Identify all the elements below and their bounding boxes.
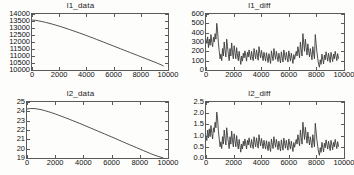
- xtick-mark: [289, 14, 290, 17]
- xtick-mark: [168, 14, 169, 17]
- ytick-label: 25: [17, 98, 27, 106]
- xtick-label: 8000: [131, 159, 148, 167]
- xtick-mark: [32, 14, 33, 17]
- ytick-label: 400: [191, 29, 206, 37]
- xtick-label: 10000: [334, 159, 354, 167]
- ytick-mark: [27, 139, 30, 140]
- ytick-label: 1.5: [194, 121, 206, 129]
- xtick-mark: [168, 102, 169, 105]
- ytick-label: 600: [191, 10, 206, 18]
- ytick-mark: [165, 56, 168, 57]
- xtick-mark: [234, 67, 235, 70]
- xtick-mark: [114, 67, 115, 70]
- plot-area-l2-diff: 0.00.51.01.52.02.50200040006000800010000: [205, 101, 345, 159]
- xtick-mark: [206, 155, 207, 158]
- xtick-label: 4000: [75, 159, 92, 167]
- xtick-mark: [32, 67, 33, 70]
- ytick-label: 1.0: [194, 132, 206, 140]
- xtick-mark: [206, 14, 207, 17]
- ytick-mark: [206, 61, 209, 62]
- ytick-label: 10000: [9, 66, 32, 74]
- xtick-mark: [261, 14, 262, 17]
- xtick-mark: [316, 67, 317, 70]
- xtick-mark: [83, 102, 84, 105]
- xtick-mark: [344, 14, 345, 17]
- ytick-label: 500: [191, 20, 206, 28]
- ytick-mark: [27, 130, 30, 131]
- xtick-mark: [261, 155, 262, 158]
- xtick-mark: [140, 155, 141, 158]
- panel-l1-data: l1_data 10000105001100011500120001250013…: [0, 0, 177, 88]
- ytick-label: 0.5: [194, 143, 206, 151]
- xtick-label: 6000: [280, 159, 297, 167]
- ytick-mark: [341, 23, 344, 24]
- xtick-label: 10000: [158, 71, 179, 79]
- xtick-mark: [114, 14, 115, 17]
- plot-area-l1-data: 1000010500110001150012000125001300013500…: [31, 13, 169, 71]
- xtick-label: 4000: [253, 71, 270, 79]
- ytick-mark: [165, 35, 168, 36]
- ytick-label: 2.5: [194, 98, 206, 106]
- ytick-mark: [165, 63, 168, 64]
- plot-line-l1-data: [32, 14, 168, 70]
- xtick-label: 6000: [280, 71, 297, 79]
- ytick-mark: [206, 42, 209, 43]
- xtick-label: 2000: [47, 159, 64, 167]
- xtick-mark: [234, 102, 235, 105]
- xtick-mark: [234, 14, 235, 17]
- xtick-label: 6000: [103, 159, 120, 167]
- panel-l1-diff: l1_diff 01002003004005006000200040006000…: [177, 0, 354, 88]
- xtick-label: 0: [204, 71, 208, 79]
- ytick-label: 2.0: [194, 109, 206, 117]
- xtick-mark: [55, 102, 56, 105]
- ytick-mark: [32, 49, 35, 50]
- xtick-label: 8000: [308, 71, 325, 79]
- plot-line-l1-diff: [206, 14, 344, 70]
- ytick-mark: [206, 124, 209, 125]
- xtick-mark: [59, 67, 60, 70]
- panel-title-l2-data: l2_data: [0, 89, 169, 98]
- ytick-label: 23: [17, 117, 27, 125]
- xtick-mark: [289, 155, 290, 158]
- ytick-mark: [27, 121, 30, 122]
- ytick-mark: [206, 23, 209, 24]
- xtick-mark: [344, 67, 345, 70]
- xtick-mark: [27, 155, 28, 158]
- ytick-mark: [206, 113, 209, 114]
- xtick-mark: [344, 102, 345, 105]
- ytick-mark: [165, 130, 168, 131]
- ytick-label: 12500: [9, 31, 32, 39]
- xtick-mark: [112, 102, 113, 105]
- xtick-label: 10000: [334, 71, 354, 79]
- ytick-mark: [341, 61, 344, 62]
- ytick-mark: [32, 63, 35, 64]
- ytick-mark: [341, 113, 344, 114]
- ytick-label: 300: [191, 38, 206, 46]
- xtick-mark: [140, 102, 141, 105]
- ytick-mark: [27, 149, 30, 150]
- xtick-mark: [206, 102, 207, 105]
- panel-l2-diff: l2_diff 0.00.51.01.52.02.502000400060008…: [177, 88, 354, 175]
- ytick-mark: [341, 33, 344, 34]
- ytick-label: 12000: [9, 38, 32, 46]
- figure-canvas: l1_data 10000105001100011500120001250013…: [0, 0, 354, 175]
- xtick-mark: [112, 155, 113, 158]
- xtick-mark: [59, 14, 60, 17]
- xtick-label: 10000: [158, 159, 179, 167]
- xtick-label: 0: [204, 159, 208, 167]
- ytick-mark: [206, 136, 209, 137]
- ytick-label: 11500: [10, 45, 32, 53]
- xtick-mark: [27, 102, 28, 105]
- xtick-mark: [261, 67, 262, 70]
- ytick-label: 200: [191, 48, 206, 56]
- xtick-mark: [168, 67, 169, 70]
- ytick-mark: [32, 28, 35, 29]
- xtick-mark: [141, 14, 142, 17]
- ytick-mark: [32, 42, 35, 43]
- ytick-mark: [32, 21, 35, 22]
- ytick-mark: [27, 111, 30, 112]
- ytick-mark: [165, 49, 168, 50]
- ytick-mark: [341, 147, 344, 148]
- plot-line-l2-diff: [206, 102, 344, 158]
- ytick-label: 13000: [9, 24, 32, 32]
